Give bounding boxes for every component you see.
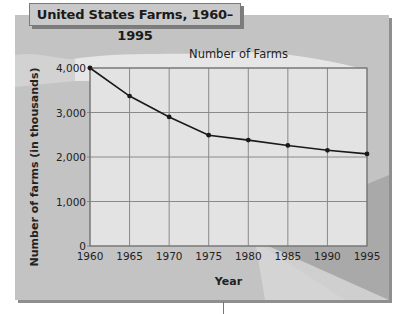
x-tick-label: 1960 — [77, 250, 104, 262]
plot-title: Number of Farms — [189, 47, 288, 61]
y-tick-label: 1,000 — [56, 196, 86, 208]
x-tick-label: 1985 — [274, 250, 301, 262]
x-axis-title: Year — [214, 275, 243, 288]
x-tick-label: 1975 — [195, 250, 222, 262]
data-point — [88, 66, 93, 71]
data-point — [127, 94, 132, 99]
y-tick-label: 3,000 — [56, 107, 86, 119]
data-point — [285, 143, 290, 148]
data-point — [365, 151, 370, 156]
data-point — [246, 138, 251, 143]
data-point — [167, 115, 172, 120]
divider-line — [223, 302, 224, 314]
x-tick-label: 1980 — [235, 250, 262, 262]
y-tick-label: 2,000 — [56, 151, 86, 163]
y-axis-title: Number of farms (in thousands) — [28, 68, 41, 267]
y-tick-label: 4,000 — [56, 62, 86, 74]
x-tick-label: 1970 — [156, 250, 183, 262]
data-point — [325, 148, 330, 153]
data-point — [206, 133, 211, 138]
x-tick-label: 1965 — [116, 250, 143, 262]
line-chart: 01,0002,0003,0004,0001960196519701975198… — [0, 0, 400, 314]
x-tick-label: 1995 — [354, 250, 381, 262]
x-tick-label: 1990 — [314, 250, 341, 262]
